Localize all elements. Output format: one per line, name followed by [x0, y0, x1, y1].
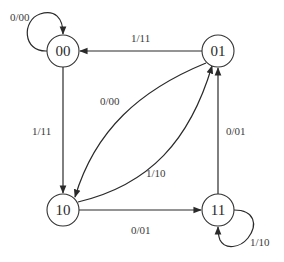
state-00-label: 00: [56, 43, 71, 59]
transition-01-to-10: [75, 63, 206, 197]
state-11-label: 11: [211, 202, 225, 218]
label-11-to-01: 0/01: [226, 125, 246, 137]
state-00: 00: [47, 35, 79, 67]
state-01-label: 01: [211, 43, 226, 59]
label-10-to-11: 0/01: [131, 224, 151, 236]
transition-10-to-01: [78, 66, 212, 202]
state-01: 01: [202, 35, 234, 67]
state-10: 10: [47, 194, 79, 226]
label-self-11: 1/10: [250, 236, 270, 248]
label-10-to-01: 1/10: [146, 167, 166, 179]
label-01-to-00: 1/11: [131, 32, 150, 44]
state-11: 11: [202, 194, 234, 226]
state-10-label: 10: [56, 202, 71, 218]
state-diagram: 00 01 10 11 0/00 1/11 1/11 0/00 1/10 0/0…: [0, 0, 284, 262]
label-01-to-10: 0/00: [100, 95, 120, 107]
label-00-to-10: 1/11: [32, 125, 51, 137]
label-self-00: 0/00: [10, 11, 30, 23]
